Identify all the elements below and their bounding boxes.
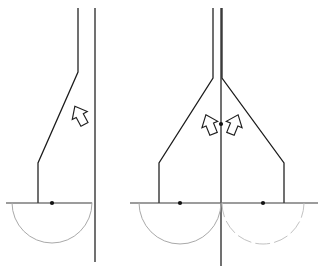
- left-panel-arc: [12, 203, 92, 243]
- figure-container: [0, 0, 323, 275]
- technical-line-drawing: [0, 0, 323, 275]
- right-panel-right-node-dot: [261, 201, 265, 205]
- right-panel: [130, 8, 318, 266]
- right-panel-right-branch: [222, 8, 284, 203]
- right-panel-left-arc: [139, 203, 221, 244]
- flow-arrow-up-left-icon: [198, 112, 221, 137]
- left-panel: [6, 8, 95, 262]
- flow-arrow-up-right-icon: [223, 112, 246, 137]
- flow-arrow-up-left-icon: [67, 102, 92, 128]
- left-panel-node-dot: [50, 201, 54, 205]
- right-panel-right-arc: [222, 203, 304, 244]
- right-panel-left-node-dot: [178, 201, 182, 205]
- right-panel-left-branch: [159, 8, 213, 203]
- right-panel-center-dot: [219, 122, 223, 126]
- left-panel-slanted-wall: [38, 8, 78, 203]
